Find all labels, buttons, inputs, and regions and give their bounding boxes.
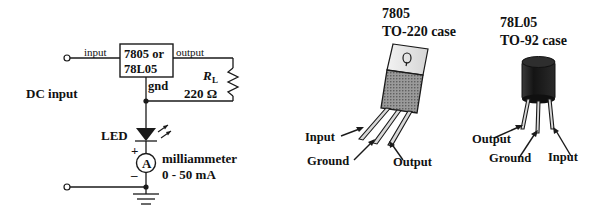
to92-case-label: TO-92 case [500,33,567,48]
dc-input-label: DC input [26,86,78,101]
to92-part-number-label: 78L05 [500,15,537,30]
to220-pin-input-label: Input [305,130,336,144]
meter-minus-sign: – [130,167,138,182]
figure-canvas: input 7805 or 78L05 output gnd DC input … [0,0,597,219]
to92-pin-output-label: Output [472,132,512,146]
ic-pin-input-label: input [84,46,107,58]
to220-case-label: TO-220 case [382,24,456,39]
load-resistor-value-label: 220 Ω [184,86,217,101]
meter-range-label: 0 - 50 mA [162,167,216,182]
ic-line2-label: 78L05 [124,62,157,76]
to92-pin-input-label: Input [548,150,579,164]
to220-part-number-label: 7805 [382,6,410,21]
ic-pin-output-label: output [176,46,204,58]
ic-line1-label: 7805 or [124,47,164,61]
led-label: LED [101,128,128,143]
to220-pin-output-label: Output [393,155,433,169]
ic-pin-ground-label: gnd [148,79,168,93]
meter-symbol-label: A [142,156,152,171]
to92-pin-ground-label: Ground [489,151,531,165]
load-resistor-subscript-label: L [212,75,218,85]
meter-plus-sign: + [131,143,138,158]
meter-name-label: milliammeter [162,151,237,166]
load-resistor-symbol-label: R [202,68,212,83]
to220-pin-ground-label: Ground [307,154,349,168]
